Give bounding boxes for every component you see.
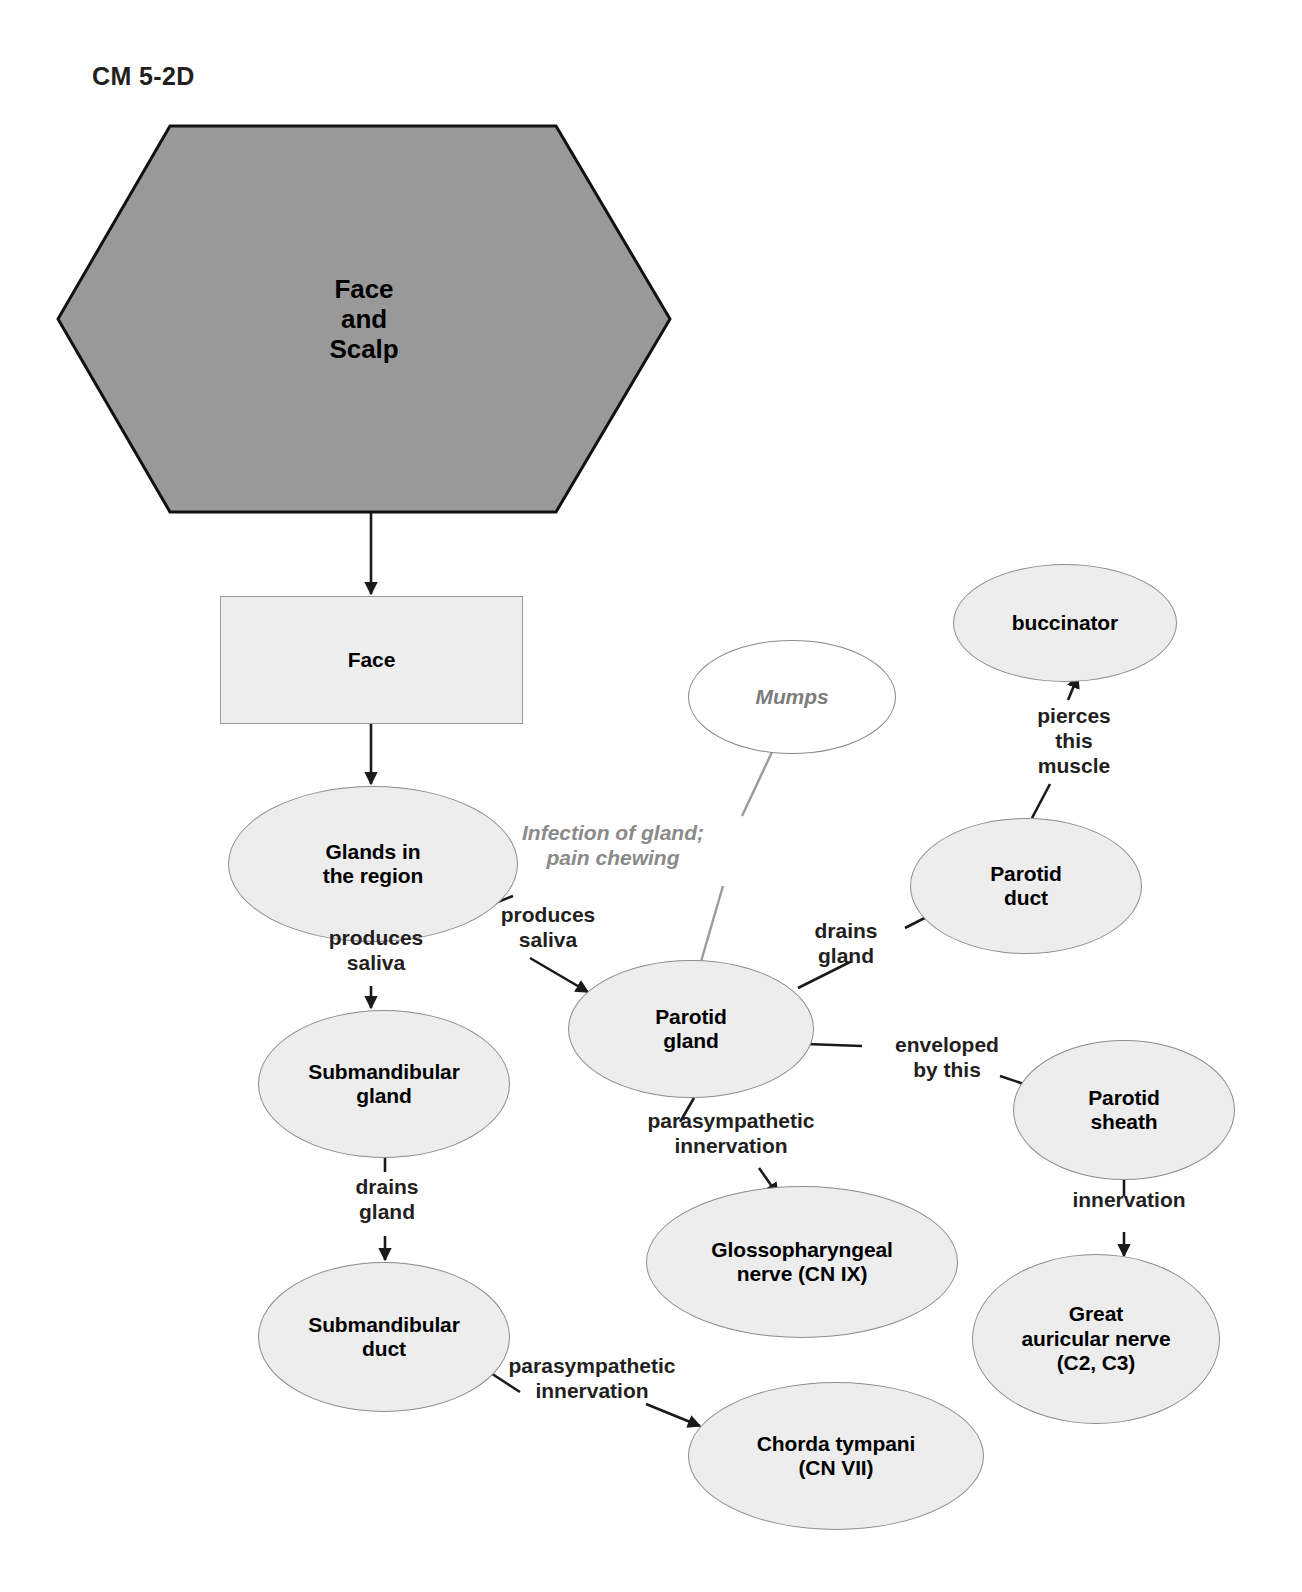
node-label-glossopharyngeal-nerve: Glossopharyngeal nerve (CN IX)	[711, 1238, 893, 1287]
node-label-chorda-tympani: Chorda tympani (CN VII)	[757, 1432, 915, 1481]
node-parotid-sheath[interactable]: Parotid sheath	[1013, 1040, 1235, 1180]
node-label-parotid-gland: Parotid gland	[655, 1005, 727, 1054]
edge-label-drains-gland-parotid: drains gland	[766, 918, 926, 968]
node-great-auricular-nerve[interactable]: Great auricular nerve (C2, C3)	[972, 1254, 1220, 1424]
node-label-parotid-duct: Parotid duct	[990, 862, 1062, 911]
node-glossopharyngeal-nerve[interactable]: Glossopharyngeal nerve (CN IX)	[646, 1186, 958, 1338]
node-parotid-gland[interactable]: Parotid gland	[568, 960, 814, 1098]
node-label-face-and-scalp: Face and Scalp	[330, 274, 399, 364]
edge-subduct-to-chorda-b	[646, 1404, 700, 1426]
edge-label-enveloped-by-this: enveloped by this	[852, 1032, 1042, 1082]
edge-label-drains-gland-submandibular: drains gland	[297, 1174, 477, 1224]
node-mumps[interactable]: Mumps	[688, 640, 896, 754]
node-face[interactable]: Face	[220, 596, 523, 724]
node-buccinator[interactable]: buccinator	[953, 564, 1177, 682]
diagram-canvas: CM 5-2D	[0, 0, 1302, 1592]
node-label-mumps: Mumps	[755, 685, 828, 709]
edge-label-parasympathetic-innervation-chorda: parasympathetic innervation	[467, 1353, 717, 1403]
node-label-great-auricular-nerve: Great auricular nerve (C2, C3)	[1021, 1302, 1170, 1375]
node-label-buccinator: buccinator	[1012, 611, 1118, 635]
node-label-parotid-sheath: Parotid sheath	[1088, 1086, 1160, 1135]
node-label-submandibular-duct: Submandibular duct	[308, 1313, 460, 1362]
edge-label-pierces-this-muscle: pierces this muscle	[1004, 703, 1144, 779]
edge-parotid-duct-to-buccinator-a	[1032, 784, 1050, 818]
node-label-face: Face	[348, 648, 395, 672]
edge-label-produces-saliva-left: produces saliva	[281, 925, 471, 975]
edge-label-mumps-note: Infection of gland; pain chewing	[393, 820, 833, 870]
node-label-submandibular-gland: Submandibular gland	[308, 1060, 460, 1109]
edge-mumps-to-parotid-gland-a	[742, 752, 772, 816]
node-parotid-duct[interactable]: Parotid duct	[910, 818, 1142, 954]
edge-mumps-to-parotid-gland-b	[700, 886, 723, 965]
edge-label-parasympathetic-innervation-glosso: parasympathetic innervation	[611, 1108, 851, 1158]
page-title: CM 5-2D	[92, 62, 195, 91]
node-face-and-scalp[interactable]: Face and Scalp	[56, 124, 672, 514]
edge-label-innervation: innervation	[1034, 1187, 1224, 1212]
edge-glands-to-parotid-gland-b	[530, 958, 588, 992]
node-chorda-tympani[interactable]: Chorda tympani (CN VII)	[688, 1382, 984, 1530]
edge-label-produces-saliva-right: produces saliva	[453, 902, 643, 952]
node-submandibular-gland[interactable]: Submandibular gland	[258, 1010, 510, 1158]
